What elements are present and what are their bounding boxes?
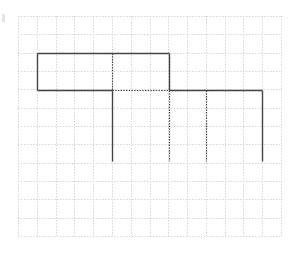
grid-diagram <box>0 0 291 257</box>
dotted-grid <box>18 16 282 237</box>
